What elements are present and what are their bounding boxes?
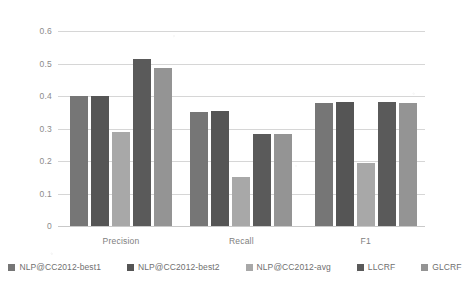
legend-label: LLCRF — [368, 262, 395, 272]
legend-swatch-icon — [8, 264, 15, 271]
x-axis-category-label: Precision — [103, 236, 140, 246]
legend-item[interactable]: GLCRF — [421, 262, 461, 272]
bar-chart: 00.10.20.30.40.50.6 PrecisionRecallF1 NL… — [0, 0, 470, 302]
legend-label: NLP@CC2012-avg — [257, 262, 331, 272]
x-axis-category-label: F1 — [360, 236, 370, 246]
legend-label: NLP@CC2012-best1 — [19, 262, 101, 272]
y-axis-tick-label: 0.1 — [18, 189, 52, 199]
bar — [357, 163, 375, 226]
legend-item[interactable]: NLP@CC2012-best2 — [127, 262, 220, 272]
y-axis-tick-label: 0.4 — [18, 91, 52, 101]
y-axis-tick-label: 0.6 — [18, 26, 52, 36]
bar — [211, 111, 229, 226]
bar — [274, 134, 292, 226]
bar — [399, 103, 417, 226]
legend-swatch-icon — [421, 264, 428, 271]
bar — [190, 112, 208, 226]
legend-item[interactable]: NLP@CC2012-avg — [246, 262, 331, 272]
bar — [70, 96, 88, 226]
plot-area — [58, 31, 425, 226]
y-axis-tick-label: 0.5 — [18, 59, 52, 69]
axis-baseline — [58, 226, 425, 227]
legend-item[interactable]: LLCRF — [357, 262, 395, 272]
bar — [315, 103, 333, 227]
legend-swatch-icon — [246, 264, 253, 271]
y-axis-tick-label: 0.3 — [18, 124, 52, 134]
bar — [232, 177, 250, 226]
y-axis-tick-label: 0.2 — [18, 156, 52, 166]
bar — [378, 102, 396, 226]
legend-item[interactable]: NLP@CC2012-best1 — [8, 262, 101, 272]
bar — [91, 96, 109, 226]
bar — [154, 68, 172, 226]
legend-swatch-icon — [357, 264, 364, 271]
legend-label: NLP@CC2012-best2 — [138, 262, 220, 272]
legend-swatch-icon — [127, 264, 134, 271]
y-axis-tick-label: 0 — [18, 221, 52, 231]
bar-group — [190, 31, 292, 226]
chart-legend: NLP@CC2012-best1NLP@CC2012-best2NLP@CC20… — [0, 262, 470, 272]
bar — [336, 102, 354, 226]
x-axis-category-label: Recall — [229, 236, 254, 246]
bar — [133, 59, 151, 226]
bar — [253, 134, 271, 226]
legend-label: GLCRF — [432, 262, 461, 272]
bar-group — [315, 31, 417, 226]
bar-group — [70, 31, 172, 226]
bar — [112, 132, 130, 226]
